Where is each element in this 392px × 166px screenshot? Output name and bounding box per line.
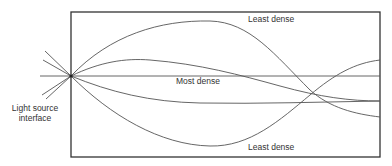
incident-rays bbox=[42, 51, 71, 99]
most-dense-label: Most dense bbox=[176, 77, 220, 87]
curve-lower-inner bbox=[71, 76, 380, 103]
least-dense-bottom-label: Least dense bbox=[248, 143, 294, 153]
curve-upper-arc bbox=[71, 21, 380, 117]
least-dense-top-label: Least dense bbox=[248, 15, 294, 25]
light-source-point bbox=[69, 74, 72, 77]
incident-ray-3 bbox=[42, 76, 71, 95]
incident-ray-4 bbox=[46, 76, 71, 99]
light-source-label-line2: interface bbox=[2, 114, 68, 124]
medium-box bbox=[71, 12, 380, 157]
refracted-curves bbox=[71, 21, 380, 146]
curve-upper-inner bbox=[71, 60, 380, 101]
light-source-label: Light source interface bbox=[2, 104, 68, 124]
